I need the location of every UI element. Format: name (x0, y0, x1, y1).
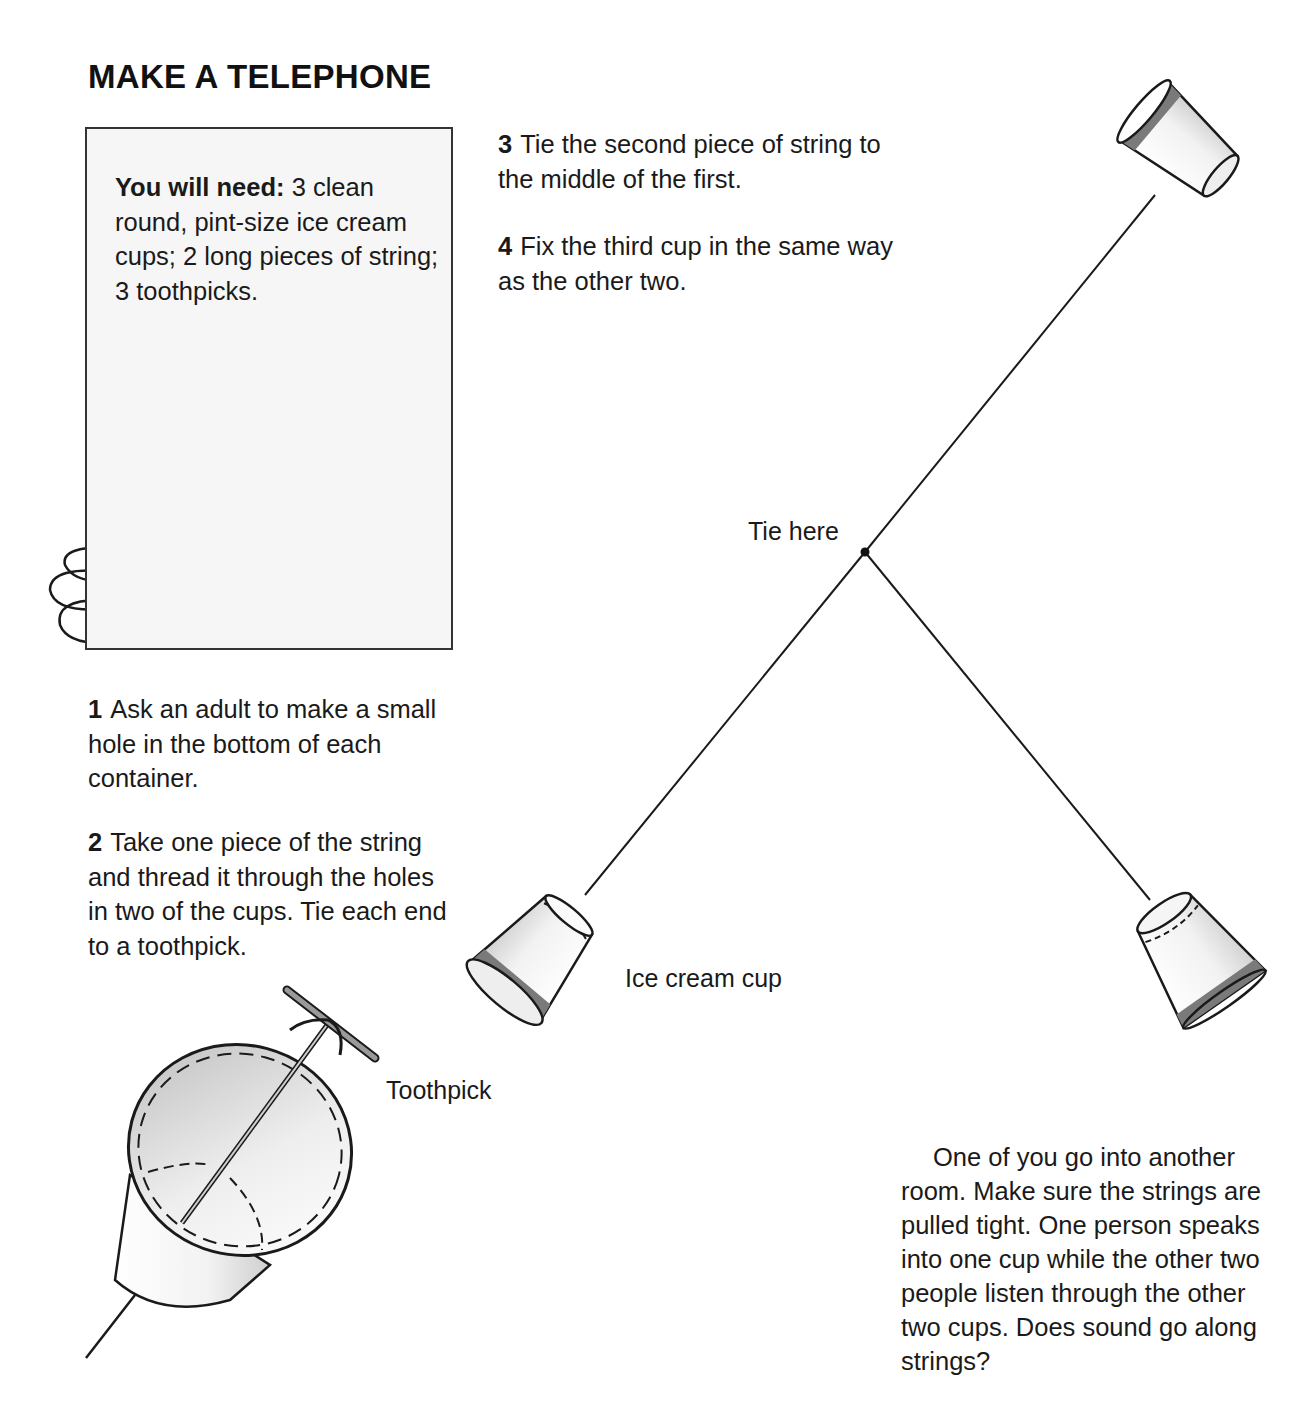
step-text: Ask an adult to make a small hole in the… (88, 695, 436, 792)
step-text: Fix the third cup in the same way as the… (498, 232, 893, 295)
step-text: Take one piece of the string and thread … (88, 828, 447, 960)
closing-text: One of you go into another room. Make su… (901, 1143, 1261, 1375)
ice-cream-cup-label: Ice cream cup (625, 964, 782, 993)
knot-dot (861, 548, 870, 557)
step-number: 1 (88, 695, 102, 723)
string-to-top-cup (865, 195, 1155, 552)
string-lines (585, 195, 1155, 900)
step-1: 1Ask an adult to make a small hole in th… (88, 692, 448, 796)
closing-paragraph: One of you go into another room. Make su… (901, 1140, 1291, 1378)
step-4: 4Fix the third cup in the same way as th… (498, 229, 898, 298)
step-number: 2 (88, 828, 102, 856)
toothpick-label: Toothpick (386, 1076, 492, 1105)
step-text: Tie the second piece of string to the mi… (498, 130, 881, 193)
step-number: 3 (498, 130, 512, 158)
materials-text: You will need: 3 clean round, pint-size … (115, 170, 445, 308)
step-3: 3Tie the second piece of string to the m… (498, 127, 898, 196)
top-cup (1111, 75, 1252, 211)
ice-cream-cup (459, 879, 611, 1034)
tie-here-label: Tie here (748, 517, 839, 546)
page-title: MAKE A TELEPHONE (88, 58, 431, 96)
string-to-left-cup (585, 552, 865, 895)
materials-label: You will need: (115, 173, 285, 201)
step-2: 2Take one piece of the string and thread… (88, 825, 458, 963)
right-cup (1117, 876, 1269, 1034)
toothpick-cup-closeup (86, 990, 375, 1358)
string-to-right-cup (865, 552, 1150, 900)
step-number: 4 (498, 232, 512, 260)
